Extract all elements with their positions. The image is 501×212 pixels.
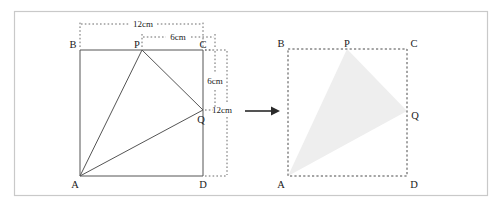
dim-label-6cm-vertical: 6cm bbox=[207, 76, 223, 86]
label-right-A: A bbox=[277, 179, 285, 190]
label-right-B: B bbox=[277, 38, 284, 49]
label-right-C: C bbox=[410, 38, 417, 49]
label-left-P: P bbox=[134, 39, 140, 50]
label-left-A: A bbox=[71, 179, 79, 190]
label-left-D: D bbox=[199, 179, 207, 190]
figure-canvas: 12cm 6cm 6cm 12cm B C A D P Q bbox=[0, 0, 501, 212]
arrow-head bbox=[271, 107, 280, 116]
dim-label-12cm-vertical: 12cm bbox=[212, 105, 232, 115]
label-left-Q: Q bbox=[197, 114, 205, 125]
label-left-C: C bbox=[199, 39, 206, 50]
geometry-figure: 12cm 6cm 6cm 12cm B C A D P Q bbox=[0, 0, 501, 212]
left-square-outline bbox=[80, 50, 203, 176]
label-right-P: P bbox=[344, 38, 350, 49]
label-right-Q: Q bbox=[411, 110, 419, 121]
left-triangle-apq bbox=[80, 50, 203, 176]
left-square-diagram: 12cm 6cm 6cm 12cm B C A D P Q bbox=[69, 19, 232, 190]
transformation-arrow bbox=[245, 107, 280, 116]
dim-label-12cm-top: 12cm bbox=[133, 19, 153, 29]
shaded-triangle-apq bbox=[288, 49, 407, 176]
right-square-diagram: B C A D P Q bbox=[277, 38, 419, 190]
label-left-B: B bbox=[69, 39, 76, 50]
label-right-D: D bbox=[410, 179, 418, 190]
dim-label-6cm-top: 6cm bbox=[170, 32, 186, 42]
